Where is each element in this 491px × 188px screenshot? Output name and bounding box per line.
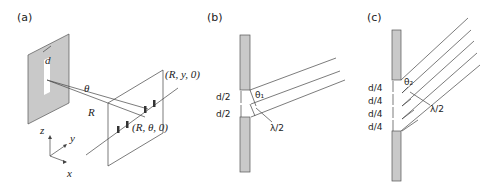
segment-label: d/4 (368, 83, 383, 93)
segment-label: d/2 (216, 92, 230, 102)
diffraction-diagram: (a) d θ R (R, y, 0) (R, θ, 0) (0, 0, 491, 188)
angle-theta1-label: θ₁ (255, 90, 265, 100)
y-axis (50, 145, 66, 156)
ray (402, 41, 474, 106)
barrier-top (240, 35, 250, 90)
segment-label: d/4 (368, 122, 383, 132)
point-top-label: (R, y, 0) (165, 68, 200, 81)
fringe-mark (117, 126, 120, 133)
x-axis-label: x (66, 167, 72, 179)
panel-a: (a) d θ R (R, y, 0) (R, θ, 0) (17, 11, 200, 179)
angle-theta-label: θ (84, 82, 90, 94)
path-diff-label: λ/2 (270, 123, 284, 133)
fringe-mark (144, 106, 147, 113)
path-diff-label: λ/2 (430, 104, 444, 114)
observation-screen (108, 70, 163, 166)
panel-b: (b) d/2 d/2 θ₁ λ/2 (207, 11, 345, 172)
ray (401, 65, 480, 131)
wavefront-line (402, 110, 414, 119)
z-axis-label: z (39, 124, 45, 136)
panel-c-label: (c) (367, 11, 382, 24)
barrier-bottom (240, 117, 250, 172)
ray (401, 18, 468, 80)
distance-R-label: R (87, 106, 95, 118)
angle-theta2-label: θ₂ (404, 77, 414, 87)
slit-width-label: d (45, 54, 51, 66)
y-axis-label: y (69, 132, 75, 144)
panel-b-label: (b) (207, 11, 223, 24)
coordinate-axes: z y x (39, 124, 75, 179)
barrier-bottom (392, 131, 401, 181)
wavefront-line (250, 104, 255, 116)
fringe-mark (153, 100, 156, 107)
wavefront-line (402, 120, 418, 131)
point-bottom-label: (R, θ, 0) (132, 121, 168, 134)
segment-label: d/4 (368, 96, 383, 106)
path-diff-pointer (256, 108, 272, 122)
segment-label: d/2 (216, 109, 230, 119)
wavefront-line (402, 99, 411, 106)
panel-c: (c) d/4 d/4 d/4 d/4 θ₂ λ/2 (367, 11, 480, 181)
barrier-top (392, 30, 401, 80)
segment-label: d/4 (368, 109, 383, 119)
fringe-mark (126, 121, 129, 128)
panel-a-label: (a) (17, 11, 32, 24)
ray (250, 58, 336, 90)
wavefront-line (402, 87, 408, 93)
